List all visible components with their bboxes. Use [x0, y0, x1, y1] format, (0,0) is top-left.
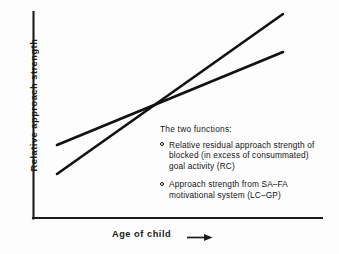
x-axis-label: Age of child: [112, 229, 171, 239]
legend-entry-line: goal activity (RC): [169, 161, 336, 172]
y-axis-label: Relative approach strength: [29, 20, 39, 190]
legend: The two functions: Relative residual app…: [160, 124, 336, 201]
legend-entry-line: blocked (in excess of consummated): [169, 150, 336, 161]
legend-entry-line: Approach strength from SA–FA: [169, 179, 336, 190]
right-arrow-icon: [187, 233, 213, 242]
legend-heading: The two functions:: [160, 124, 336, 135]
legend-entry-line: motivational system (LC–GP): [169, 190, 336, 201]
legend-entry-rc: Relative residual approach strength of b…: [160, 140, 336, 172]
open-circle-marker-icon: [160, 182, 164, 186]
open-circle-marker-icon: [160, 142, 164, 146]
legend-entry-line: Relative residual approach strength of: [169, 140, 336, 151]
legend-entry-lc-gp: Approach strength from SA–FA motivationa…: [160, 179, 336, 200]
figure-container: Relative approach strength Age of child …: [0, 0, 339, 254]
